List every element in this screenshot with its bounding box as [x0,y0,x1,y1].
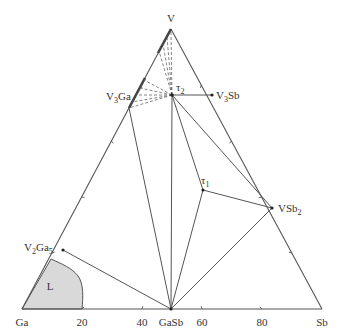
vertex-label-sb: Sb [316,316,328,328]
tie-lines [63,95,272,309]
label-liquid: L [47,280,54,292]
tick-left-60 [111,141,113,143]
vertex-label-v: V [167,12,175,24]
tick-label-60: 60 [197,316,209,328]
tick-right-60 [259,197,262,198]
point-tau1 [201,188,204,191]
v-solid-solution [158,29,171,53]
tick-label-80: 80 [257,316,269,328]
tick-left-40 [82,197,85,198]
label-vsb2: VSb2 [278,202,302,217]
tick-label-40: 40 [137,316,149,328]
edge-ga-v [22,29,171,309]
label-gasb: GaSb [159,316,184,328]
ternary-phase-diagram: V Ga Sb 20 40 60 80 GaSb V3Ga V3Sb V2Ga5… [0,0,344,331]
point-v3sb [210,93,213,96]
point-v2ga5 [61,248,64,251]
tick-right-40 [230,141,232,143]
edge-v-sb [171,29,322,309]
label-tau2: τ2 [176,81,184,96]
point-vsb2 [270,206,273,209]
tick-label-20: 20 [77,316,89,328]
tick-right-20 [201,85,202,88]
label-v3sb: V3Sb [216,89,240,104]
vertex-label-ga: Ga [16,316,29,328]
point-tau2 [170,93,174,97]
label-v3ga: V3Ga [106,90,131,105]
point-gasb [169,307,172,310]
label-v2ga5: V2Ga5 [24,241,53,256]
